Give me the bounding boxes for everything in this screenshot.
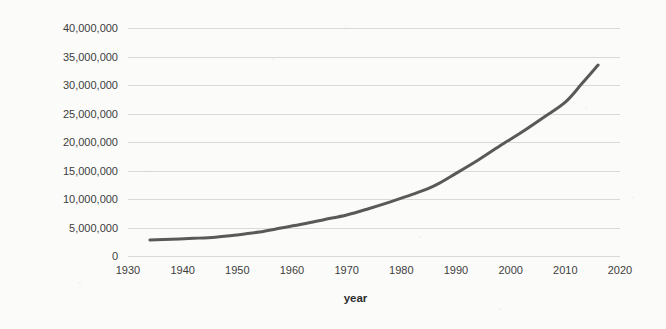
x-axis-tick-label: 1990 — [426, 264, 486, 276]
x-axis-tick-label: 2000 — [481, 264, 541, 276]
x-axis-tick-label: 1930 — [98, 264, 158, 276]
x-axis-tick-label: 1970 — [317, 264, 377, 276]
y-axis-tick-label: 20,000,000 — [0, 136, 118, 148]
x-axis-tick-label: 1950 — [207, 264, 267, 276]
chart-container: Population of elderly people 05,000,0001… — [0, 0, 666, 329]
y-axis-tick-label: 25,000,000 — [0, 108, 118, 120]
y-axis-tick-label: 15,000,000 — [0, 165, 118, 177]
y-axis-tick-label: 10,000,000 — [0, 193, 118, 205]
y-axis-tick-label: 40,000,000 — [0, 22, 118, 34]
y-axis-tick-label: 35,000,000 — [0, 51, 118, 63]
x-axis-tick-label: 1940 — [153, 264, 213, 276]
x-axis-tick-label: 2010 — [535, 264, 595, 276]
series-line-population — [128, 28, 620, 256]
x-axis-tick-label: 1960 — [262, 264, 322, 276]
plot-area — [128, 28, 620, 256]
x-axis-title: year — [0, 292, 666, 304]
y-axis-tick-label: 30,000,000 — [0, 79, 118, 91]
gridline — [128, 256, 620, 257]
series-path — [150, 65, 598, 240]
x-axis-tick-label: 2020 — [590, 264, 650, 276]
y-axis-tick-label: 0 — [0, 250, 118, 262]
y-axis-tick-label: 5,000,000 — [0, 222, 118, 234]
x-axis-tick-label: 1980 — [371, 264, 431, 276]
